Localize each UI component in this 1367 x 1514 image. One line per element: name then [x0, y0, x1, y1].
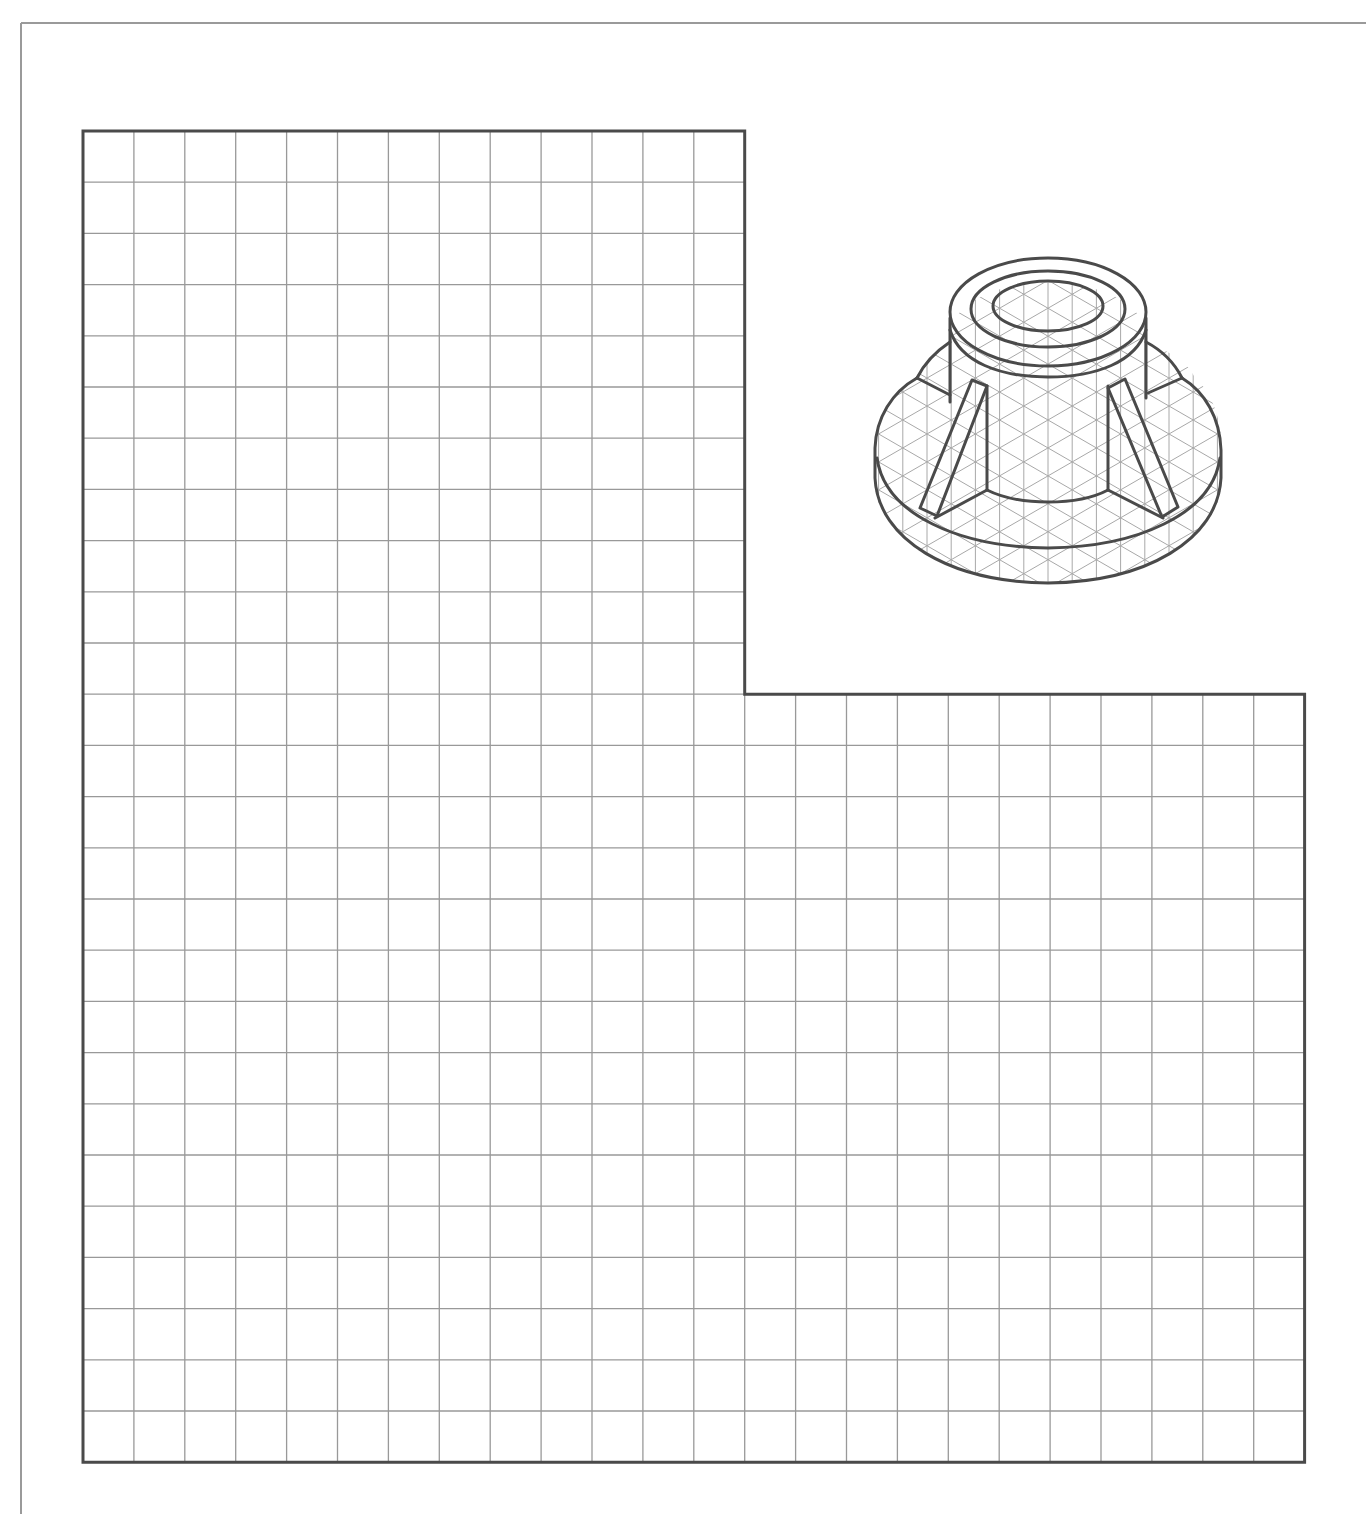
iso-grid-diagonal [840, 104, 1260, 346]
iso-grid-diagonal [840, 132, 1260, 374]
iso-grid-diagonal [840, 0, 1260, 235]
iso-grid-diagonal [840, 0, 1260, 233]
iso-grid-diagonal [840, 0, 1260, 37]
isometric-grid [758, 0, 1339, 1381]
iso-grid-diagonal [840, 0, 1260, 11]
iso-grid-diagonal [840, 130, 1260, 372]
iso-grid-diagonal [840, 46, 1260, 288]
iso-grid-diagonal [840, 0, 1260, 9]
iso-grid-diagonal [840, 0, 1260, 39]
iso-grid-diagonal [840, 102, 1260, 344]
iso-grid-diagonal [840, 20, 1260, 262]
left-flat-line [917, 378, 950, 395]
iso-grid-diagonal [840, 0, 1260, 65]
right-fillet-line [1108, 490, 1163, 518]
iso-grid-diagonal [840, 0, 1260, 93]
iso-grid-diagonal [840, 0, 1260, 179]
iso-grid-diagonal [840, 0, 1260, 177]
iso-grid-diagonal [840, 0, 1260, 67]
iso-grid-diagonal [840, 158, 1260, 400]
square-grid [83, 131, 1305, 1462]
isometric-bushing-drawing [758, 0, 1339, 1381]
iso-grid-diagonal [840, 0, 1260, 123]
iso-grid-diagonal [840, 0, 1260, 207]
iso-grid-diagonal [840, 0, 1260, 205]
worksheet-canvas [0, 0, 1367, 1514]
iso-grid-diagonal [840, 48, 1260, 290]
iso-grid-diagonal [840, 0, 1260, 95]
iso-grid-diagonal [840, 18, 1260, 260]
iso-grid-diagonal [840, 0, 1260, 121]
iso-grid-diagonal [840, 440, 1260, 682]
